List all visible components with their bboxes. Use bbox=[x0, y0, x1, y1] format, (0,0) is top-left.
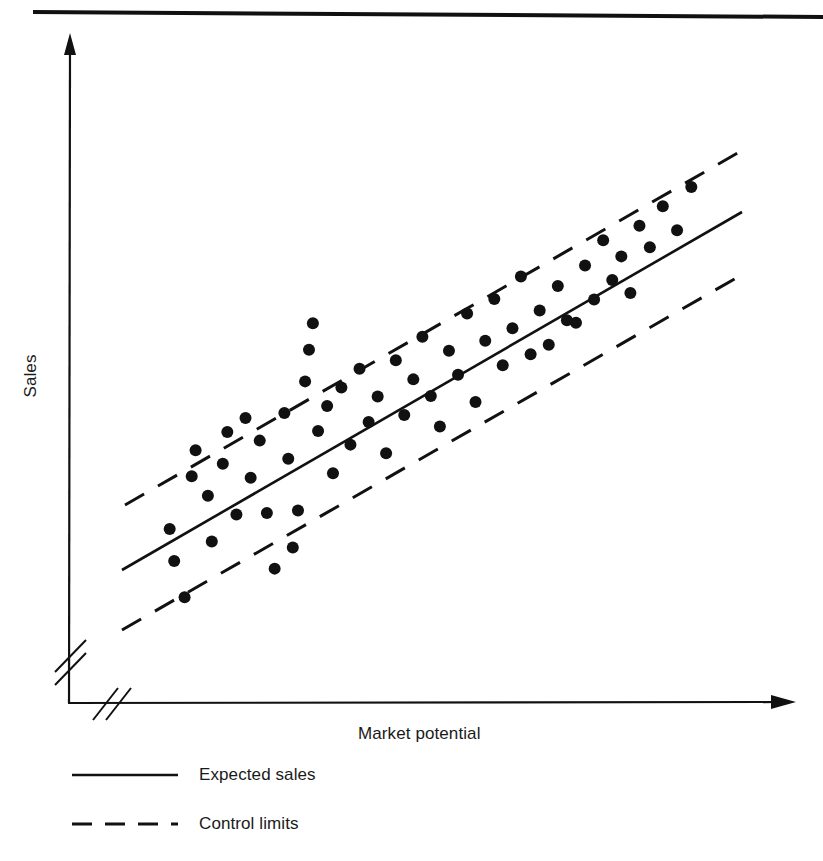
scatter-point bbox=[398, 409, 410, 421]
scatter-point bbox=[335, 381, 347, 393]
scatter-point bbox=[303, 344, 315, 356]
scatter-point bbox=[685, 181, 697, 193]
scatter-point bbox=[657, 200, 669, 212]
scatter-point bbox=[461, 308, 473, 320]
scatter-point bbox=[327, 467, 339, 479]
scatter-point bbox=[443, 345, 455, 357]
scatter-point bbox=[230, 508, 242, 520]
top-rule bbox=[33, 12, 823, 17]
scatter-point bbox=[206, 536, 218, 548]
scatter-point bbox=[416, 331, 428, 343]
scatter-point bbox=[287, 542, 299, 554]
y-axis-break-mark bbox=[55, 640, 86, 672]
scatter-point bbox=[354, 363, 366, 375]
scatter-point bbox=[282, 453, 294, 465]
scatter-point bbox=[552, 280, 564, 292]
x-axis-label: Market potential bbox=[358, 724, 481, 744]
scatter-point bbox=[506, 322, 518, 334]
scatter-point bbox=[488, 293, 500, 305]
scatter-point bbox=[344, 439, 356, 451]
scatter-point bbox=[671, 224, 683, 236]
scatter-point bbox=[470, 396, 482, 408]
scatter-point bbox=[363, 416, 375, 428]
scatter-point bbox=[479, 335, 491, 347]
scatter-point bbox=[217, 458, 229, 470]
scatter-point bbox=[434, 421, 446, 433]
scatter-point bbox=[307, 317, 319, 329]
legend-label-control-limits: Control limits bbox=[199, 814, 299, 834]
scatter-point bbox=[543, 339, 555, 351]
scatter-point bbox=[588, 294, 600, 306]
y-axis-label: Sales bbox=[21, 331, 41, 421]
scatter-point bbox=[186, 470, 198, 482]
scatter-point bbox=[597, 234, 609, 246]
scatter-point bbox=[239, 412, 251, 424]
scatter-point bbox=[190, 444, 202, 456]
scatter-point bbox=[202, 490, 214, 502]
y-axis-arrowhead bbox=[64, 33, 76, 55]
x-axis-line bbox=[68, 702, 780, 703]
scatter-point bbox=[179, 591, 191, 603]
scatter-point bbox=[261, 507, 273, 519]
scatter-point bbox=[312, 425, 324, 437]
scatter-point bbox=[534, 305, 546, 317]
scatter-point bbox=[390, 354, 402, 366]
scatter-point bbox=[245, 472, 257, 484]
scatter-point bbox=[624, 287, 636, 299]
y-axis-line bbox=[69, 44, 70, 703]
y-axis-break-mark bbox=[55, 653, 86, 685]
scatter-point bbox=[452, 369, 464, 381]
scatter-point bbox=[299, 375, 311, 387]
scatter-point bbox=[425, 390, 437, 402]
scatter-point bbox=[168, 555, 180, 567]
scatter-point bbox=[515, 270, 527, 282]
scatter-point bbox=[615, 250, 627, 262]
scatter-point bbox=[372, 390, 384, 402]
x-axis-arrowhead bbox=[771, 695, 796, 709]
scatter-point bbox=[633, 220, 645, 232]
scatter-point bbox=[380, 447, 392, 459]
scatter-point bbox=[278, 407, 290, 419]
scatter-point bbox=[407, 373, 419, 385]
scatter-point bbox=[579, 259, 591, 271]
scatter-point bbox=[254, 435, 266, 447]
scatter-point bbox=[606, 274, 618, 286]
scatter-point bbox=[644, 241, 656, 253]
scatter-points-group bbox=[164, 181, 698, 603]
scatter-point bbox=[321, 400, 333, 412]
scatter-point bbox=[164, 523, 176, 535]
scatter-point bbox=[570, 317, 582, 329]
scatter-point bbox=[221, 426, 233, 438]
chart-figure: Sales Market potential Expected sales Co… bbox=[0, 0, 823, 861]
scatter-point bbox=[497, 359, 509, 371]
scatter-point bbox=[269, 563, 281, 575]
legend-label-expected-sales: Expected sales bbox=[199, 765, 316, 785]
scatter-point bbox=[292, 504, 304, 516]
scatter-point bbox=[525, 348, 537, 360]
